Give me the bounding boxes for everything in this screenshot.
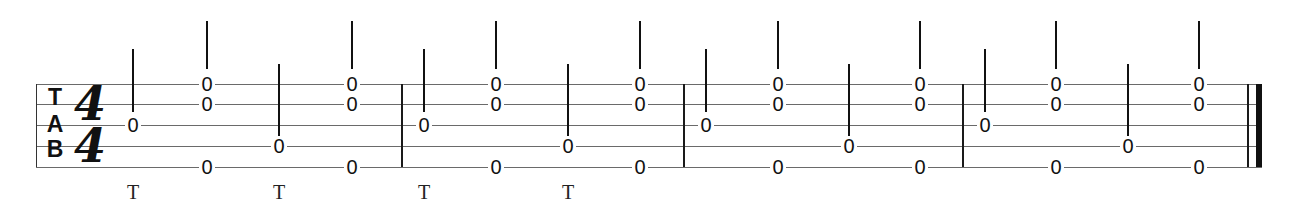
fret-number: 0 [199,95,215,113]
start-barline [36,84,37,167]
fret-number: 0 [1191,158,1207,176]
time-signature-bottom: 4 [74,126,104,166]
string-line-2 [36,104,1262,105]
string-line-4 [36,146,1262,147]
string-line-3 [36,125,1262,126]
note-stem [567,64,569,136]
fret-number: 0 [1048,95,1064,113]
fret-number: 0 [912,158,928,176]
fret-number: 0 [488,75,504,93]
fret-number: 0 [632,95,648,113]
tab-clef-b: B [44,139,66,159]
fret-number: 0 [560,137,576,155]
thumb-pick-label: T [123,181,143,203]
note-stem [705,49,707,112]
final-barline-thick [1256,84,1262,167]
barline-2 [683,84,685,167]
note-stem [206,21,208,69]
note-stem [984,49,986,112]
tab-staff: T A B 4 4 0T0000T0000T0000T0000000000000… [0,0,1294,214]
fret-number: 0 [770,95,786,113]
barline-1 [401,84,403,167]
fret-number: 0 [416,116,432,134]
thumb-pick-label: T [414,181,434,203]
note-stem [919,21,921,69]
final-barline-thin [1247,84,1249,167]
fret-number: 0 [912,95,928,113]
tab-clef-a: A [44,114,66,134]
fret-number: 0 [698,116,714,134]
thumb-pick-label: T [269,181,289,203]
time-signature-top: 4 [74,84,104,124]
fret-number: 0 [770,75,786,93]
string-line-5 [36,167,1262,168]
fret-number: 0 [488,95,504,113]
fret-number: 0 [1048,75,1064,93]
fret-number: 0 [912,75,928,93]
fret-number: 0 [271,137,287,155]
fret-number: 0 [344,75,360,93]
thumb-pick-label: T [558,181,578,203]
note-stem [639,21,641,69]
tab-clef-t: T [44,87,66,107]
fret-number: 0 [199,75,215,93]
note-stem [495,21,497,69]
fret-number: 0 [1191,75,1207,93]
fret-number: 0 [1048,158,1064,176]
note-stem [423,49,425,112]
fret-number: 0 [125,116,141,134]
string-line-1 [36,84,1262,85]
barline-3 [962,84,964,167]
note-stem [278,64,280,136]
note-stem [132,49,134,112]
fret-number: 0 [344,158,360,176]
fret-number: 0 [632,75,648,93]
fret-number: 0 [770,158,786,176]
note-stem [1198,21,1200,69]
fret-number: 0 [841,137,857,155]
note-stem [1055,21,1057,69]
note-stem [848,64,850,136]
fret-number: 0 [1191,95,1207,113]
fret-number: 0 [632,158,648,176]
note-stem [1127,64,1129,136]
fret-number: 0 [488,158,504,176]
note-stem [777,21,779,69]
fret-number: 0 [344,95,360,113]
fret-number: 0 [1120,137,1136,155]
fret-number: 0 [977,116,993,134]
note-stem [351,21,353,69]
fret-number: 0 [199,158,215,176]
